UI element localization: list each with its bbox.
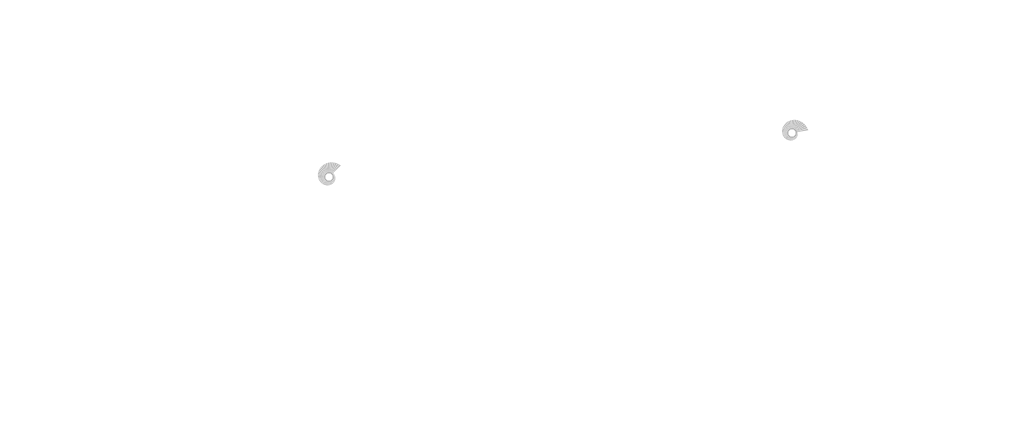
spiral-center-dot	[788, 129, 796, 137]
spiral-figure-canvas	[0, 0, 1030, 439]
page-background	[0, 0, 1030, 439]
spiral-center-dot	[325, 173, 333, 181]
